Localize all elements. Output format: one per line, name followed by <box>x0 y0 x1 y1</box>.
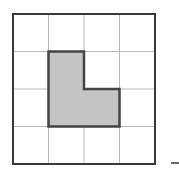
shaded-l-shape <box>49 52 120 127</box>
grid-diagram <box>0 0 179 172</box>
